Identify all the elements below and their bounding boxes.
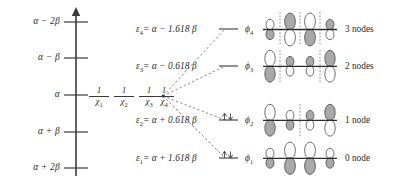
energy-expression-e3: ε3= α − 0.618 β: [136, 61, 197, 73]
axis-label-alpha-plus-2beta: α + 2β: [4, 162, 60, 172]
orbital-picture-phi3: [263, 50, 337, 83]
basis-orbital-chi4-numerator: 1: [153, 86, 175, 95]
basis-orbital-chi1-denominator: χ1: [88, 97, 110, 109]
level-bars: [219, 29, 238, 158]
orbital-picture-phi1: [263, 142, 337, 174]
basis-orbital-chi1-numerator: 1: [88, 86, 110, 95]
energy-expression-e2: ε2= α + 0.618 β: [136, 115, 197, 127]
basis-orbital-chi4-denominator: χ4: [153, 97, 175, 109]
energy-expression-e1: ε1= α + 1.618 β: [136, 153, 197, 165]
mo-diagram-figure: α − 2β α − β α α + β α + 2β 1 χ1 1 χ2 1 …: [0, 0, 398, 189]
orbital-label-phi3: ϕ3: [245, 61, 253, 73]
basis-orbital-chi2-denominator: χ2: [113, 97, 135, 109]
axis-label-alpha-minus-beta: α − β: [4, 52, 60, 62]
orbital-label-phi1: ϕ1: [245, 153, 253, 165]
electron-pair-e1: [223, 151, 233, 158]
axis-label-alpha: α: [4, 89, 60, 99]
node-count-phi4: 3 nodes: [345, 24, 374, 34]
orbital-picture-phi4: [263, 12, 337, 46]
energy-axis-line: [72, 7, 80, 176]
basis-orbital-chi2-numerator: 1: [113, 86, 135, 95]
orbital-picture-phi2: [263, 104, 337, 137]
orbital-label-phi2: ϕ2: [245, 115, 253, 127]
orbital-label-phi4: ϕ4: [245, 24, 253, 36]
axis-label-alpha-minus-2beta: α − 2β: [4, 16, 60, 26]
axis-label-alpha-plus-beta: α + β: [4, 126, 60, 136]
node-count-phi1: 0 node: [345, 153, 370, 163]
basis-orbital-chi2: 1 χ2: [113, 86, 135, 109]
node-count-phi3: 2 nodes: [345, 61, 374, 71]
electron-pair-e2: [223, 113, 233, 120]
basis-orbital-chi1: 1 χ1: [88, 86, 110, 109]
basis-orbital-chi4: 1 χ4: [153, 86, 175, 109]
node-count-phi2: 1 node: [345, 115, 370, 125]
energy-expression-e4: ε4= α − 1.618 β: [136, 24, 197, 36]
